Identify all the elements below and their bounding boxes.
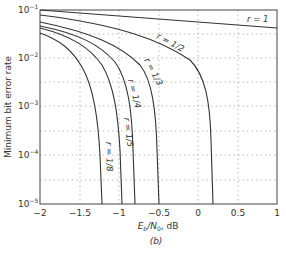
svg-text:−1.5: −1.5	[69, 208, 91, 218]
svg-text:10−4: 10−4	[18, 148, 38, 160]
x-tick-labels: −2 −1.5 −1 −0.5 0 0.5 1	[33, 208, 280, 218]
curve-r1-5	[40, 28, 122, 204]
svg-text:0: 0	[195, 208, 201, 218]
label-r1: r = 1	[247, 14, 268, 24]
label-r1-3: r = 1/3	[142, 56, 165, 87]
ber-chart: r = 1 r = 1/2 r = 1/3 r = 1/4 r = 1/5 r …	[0, 0, 286, 254]
x-axis-label: Eb/N0, dB	[138, 221, 179, 232]
label-r1-5: r = 1/5	[122, 117, 136, 148]
panel-label: (b)	[150, 236, 163, 246]
svg-text:−1: −1	[112, 208, 125, 218]
label-r1-4: r = 1/4	[126, 78, 143, 109]
curve-r1	[40, 10, 277, 28]
curve-r1-8	[40, 33, 102, 204]
svg-text:0.5: 0.5	[231, 208, 245, 218]
label-r1-8: r = 1/8	[104, 142, 115, 173]
curve-r1-2	[40, 15, 213, 204]
y-axis-label: Minimum bit error rate	[3, 55, 13, 158]
curve-r1-3	[40, 22, 159, 204]
svg-text:10−2: 10−2	[18, 51, 38, 63]
svg-text:−2: −2	[33, 208, 46, 218]
svg-text:−0.5: −0.5	[148, 208, 170, 218]
svg-text:10−3: 10−3	[18, 99, 38, 111]
y-tick-labels: 10−1 10−2 10−3 10−4 10−5	[18, 3, 38, 209]
svg-text:1: 1	[274, 208, 280, 218]
svg-text:10−1: 10−1	[18, 3, 38, 15]
